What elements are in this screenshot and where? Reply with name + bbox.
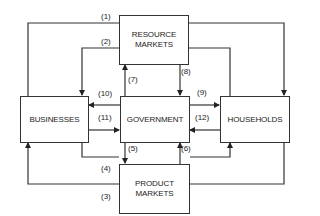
flow-6-label: (6) xyxy=(181,144,191,153)
flow-2-line-left xyxy=(82,48,119,95)
households-box: HOUSEHOLDS xyxy=(220,96,290,143)
product-markets-box: PRODUCT MARKETS xyxy=(119,164,190,214)
flow-3-line-right xyxy=(190,142,284,184)
flow-9-label: (9) xyxy=(197,88,207,97)
flow-4-line-left xyxy=(82,142,119,157)
government-box: GOVERNMENT xyxy=(120,96,190,143)
flow-5-label: (5) xyxy=(128,144,138,153)
businesses-box: BUSINESSES xyxy=(20,96,89,143)
flow-2-label: (2) xyxy=(101,37,111,46)
product-markets-line1: PRODUCT xyxy=(135,179,174,189)
flow-1-label: (1) xyxy=(101,12,111,21)
flow-2-line-right xyxy=(189,48,230,96)
product-markets-line2: MARKETS xyxy=(135,189,174,199)
flow-8-label: (8) xyxy=(181,67,191,76)
resource-markets-line1: RESOURCE xyxy=(132,30,177,40)
flow-10-label: (10) xyxy=(98,89,112,98)
flow-7-label: (7) xyxy=(128,75,138,84)
government-label: GOVERNMENT xyxy=(127,115,183,125)
resource-markets-box: RESOURCE MARKETS xyxy=(119,15,189,65)
businesses-label: BUSINESSES xyxy=(29,115,79,125)
flow-12-label: (12) xyxy=(195,113,209,122)
flow-3-label: (3) xyxy=(101,192,111,201)
flow-1-line-right xyxy=(189,23,284,95)
flow-11-label: (11) xyxy=(98,113,112,122)
resource-markets-line2: MARKETS xyxy=(132,40,177,50)
households-label: HOUSEHOLDS xyxy=(227,115,282,125)
flow-4-line-right xyxy=(190,143,230,157)
flow-1-line xyxy=(28,23,119,96)
flow-4-label: (4) xyxy=(101,164,111,173)
